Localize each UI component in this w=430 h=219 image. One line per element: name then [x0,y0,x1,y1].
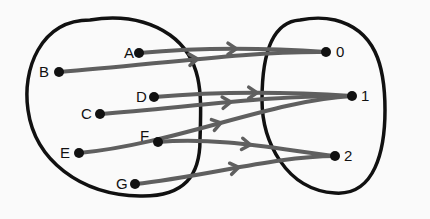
mapping-diagram: ABCDEFG012 [0,0,430,219]
domain-label-B: B [39,63,49,80]
codomain-point-2 [330,151,340,161]
codomain-point-0 [321,47,331,57]
codomain-label-1: 1 [361,87,369,104]
codomain-point-1 [347,91,357,101]
domain-label-A: A [124,44,134,61]
domain-label-E: E [60,144,70,161]
domain-point-E [74,148,84,158]
codomain-label-2: 2 [344,147,352,164]
domain-point-F [153,137,163,147]
domain-point-A [134,48,144,58]
domain-label-D: D [136,88,147,105]
domain-label-F: F [140,127,149,144]
domain-point-G [130,179,140,189]
diagram-canvas: ABCDEFG012 [0,0,430,219]
domain-point-B [54,67,64,77]
domain-point-C [95,109,105,119]
domain-label-G: G [116,175,128,192]
domain-label-C: C [81,105,92,122]
domain-point-D [149,92,159,102]
codomain-label-0: 0 [336,43,344,60]
